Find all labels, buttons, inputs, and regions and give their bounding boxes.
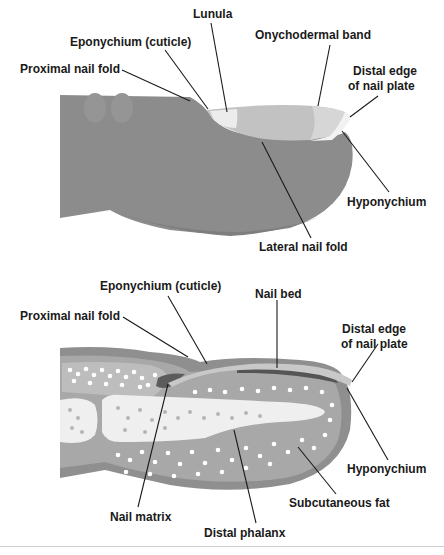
label-hyponychium-top: Hyponychium <box>347 195 426 210</box>
label-hyponychium-bottom: Hyponychium <box>347 462 426 477</box>
knuckle-bump <box>84 93 106 123</box>
label-distal-edge-bottom-2: of nail plate <box>341 337 408 352</box>
label-nail-matrix: Nail matrix <box>110 510 171 525</box>
label-eponychium-bottom: Eponychium (cuticle) <box>100 279 221 294</box>
label-distal-edge-top-1: Distal edge <box>353 64 417 79</box>
label-onychodermal-band: Onychodermal band <box>255 28 371 43</box>
label-proximal-nail-fold-bottom: Proximal nail fold <box>20 309 120 324</box>
subcutaneous-fat-proximal <box>62 362 168 398</box>
label-lateral-nail-fold: Lateral nail fold <box>259 240 348 255</box>
label-eponychium-top: Eponychium (cuticle) <box>70 35 191 50</box>
label-distal-edge-top-2: of nail plate <box>348 79 415 94</box>
label-lunula: Lunula <box>193 7 232 22</box>
middle-phalanx <box>60 398 98 443</box>
label-distal-phalanx: Distal phalanx <box>204 526 285 541</box>
label-distal-edge-bottom-1: Distal edge <box>342 322 406 337</box>
bottom-divider <box>0 546 444 547</box>
finger-cross-section <box>60 347 352 490</box>
knuckle-bump <box>111 93 133 123</box>
finger-external-view <box>60 93 353 236</box>
label-nail-bed: Nail bed <box>255 287 302 302</box>
label-proximal-nail-fold-top: Proximal nail fold <box>20 62 120 77</box>
label-subcutaneous-fat: Subcutaneous fat <box>289 496 390 511</box>
